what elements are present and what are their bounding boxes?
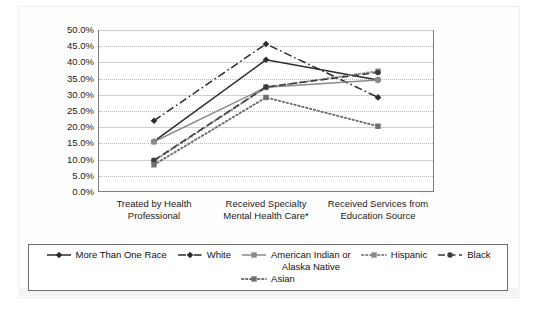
legend-item-hispanic[interactable]: Hispanic xyxy=(361,249,427,261)
legend-label-hispanic: Hispanic xyxy=(391,249,427,261)
y-axis-tick-40: 40.0% xyxy=(34,57,94,67)
y-axis-tick-20: 20.0% xyxy=(34,122,94,132)
y-axis-tick-15: 15.0% xyxy=(34,138,94,148)
x-axis-category-line: Received Services from xyxy=(322,198,434,210)
data-point xyxy=(375,77,380,82)
x-axis-category-label-3: Received Services fromEducation Source xyxy=(322,198,434,232)
chart-page: 50.0%45.0%40.0%35.0%30.0%25.0%20.0%15.0%… xyxy=(0,0,536,310)
plot-wrapper xyxy=(98,30,434,192)
data-point xyxy=(263,84,268,89)
series-line xyxy=(154,60,378,142)
x-axis-category-line: Education Source xyxy=(322,210,434,222)
series-line xyxy=(154,97,378,164)
legend-item-more-than-one-race[interactable]: More Than One Race xyxy=(46,249,167,261)
x-axis-category-line: Received Specialty xyxy=(210,198,322,210)
series-lines-svg xyxy=(98,30,434,192)
data-point xyxy=(375,124,380,129)
legend-label-line: Alaska Native xyxy=(271,261,351,273)
legend-label-white: White xyxy=(207,249,231,261)
y-axis-tick-35: 35.0% xyxy=(34,74,94,84)
series-black xyxy=(151,70,380,163)
x-axis-category-label-2: Received SpecialtyMental Health Care* xyxy=(210,198,322,232)
y-axis-tick-50: 50.0% xyxy=(34,25,94,35)
data-point xyxy=(151,162,156,167)
legend-key-asian-icon xyxy=(241,273,267,285)
legend-items-row: More Than One RaceWhiteAmerican Indian o… xyxy=(35,249,501,285)
data-point xyxy=(151,139,156,144)
legend-label-american-indian-or-alaska-native: American Indian orAlaska Native xyxy=(271,249,351,273)
chart-legend: More Than One RaceWhiteAmerican Indian o… xyxy=(28,244,508,291)
data-point xyxy=(375,94,382,101)
legend-label-more-than-one-race: More Than One Race xyxy=(76,249,167,261)
legend-label-line: American Indian or xyxy=(271,249,351,261)
series-asian xyxy=(151,95,380,168)
y-axis-tick-10: 10.0% xyxy=(34,155,94,165)
series-more-than-one-race xyxy=(151,57,382,145)
legend-item-asian[interactable]: Asian xyxy=(241,273,295,285)
legend-label-black: Black xyxy=(467,249,490,261)
legend-item-american-indian-or-alaska-native[interactable]: American Indian orAlaska Native xyxy=(241,249,351,273)
legend-key-american-indian-or-alaska-native-icon xyxy=(241,249,267,261)
legend-label-asian: Asian xyxy=(271,273,295,285)
legend-item-white[interactable]: White xyxy=(177,249,231,261)
x-axis-category-line: Treated by Health xyxy=(98,198,210,210)
x-axis-category-label-1: Treated by HealthProfessional xyxy=(98,198,210,232)
x-axis-category-line: Professional xyxy=(98,210,210,222)
legend-key-black-icon xyxy=(437,249,463,261)
y-axis-tick-0: 0.0% xyxy=(34,187,94,197)
y-axis-tick-25: 25.0% xyxy=(34,106,94,116)
data-point xyxy=(375,70,380,75)
y-axis-tick-5: 5.0% xyxy=(34,171,94,181)
y-axis-tick-labels: 50.0%45.0%40.0%35.0%30.0%25.0%20.0%15.0%… xyxy=(32,30,94,192)
x-axis-category-line: Mental Health Care* xyxy=(210,210,322,222)
legend-key-hispanic-icon xyxy=(361,249,387,261)
legend-key-more-than-one-race-icon xyxy=(46,249,72,261)
x-axis-tick-labels: Treated by HealthProfessionalReceived Sp… xyxy=(98,198,434,232)
data-point xyxy=(263,95,268,100)
y-axis-tick-45: 45.0% xyxy=(34,41,94,51)
y-axis-tick-30: 30.0% xyxy=(34,90,94,100)
legend-key-white-icon xyxy=(177,249,203,261)
legend-item-black[interactable]: Black xyxy=(437,249,490,261)
